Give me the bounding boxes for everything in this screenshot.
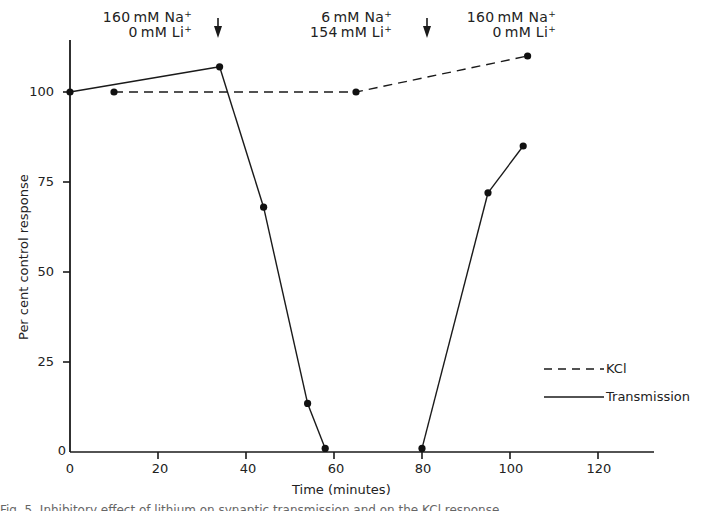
condition-label-lithium: 6 mM Na+ 154 mM Li+ bbox=[282, 10, 392, 40]
data-point bbox=[322, 445, 329, 452]
legend-kcl-label: KCl bbox=[606, 361, 627, 376]
data-point bbox=[524, 52, 531, 59]
condition-na: 160 mM Na bbox=[103, 9, 184, 25]
data-point bbox=[66, 88, 73, 95]
condition-li: 154 mM Li bbox=[310, 24, 384, 40]
superscript: + bbox=[548, 9, 556, 19]
x-tick-label: 80 bbox=[403, 461, 443, 476]
condition-li: 0 mM Li bbox=[492, 24, 548, 40]
x-tick-label: 120 bbox=[579, 461, 619, 476]
figure-caption: Fig. 5. Inhibitory effect of lithium on … bbox=[0, 504, 724, 511]
y-ticks bbox=[63, 92, 70, 362]
x-tick-label: 100 bbox=[491, 461, 531, 476]
x-ticks bbox=[158, 452, 598, 459]
x-axis-title: Time (minutes) bbox=[292, 482, 391, 497]
condition-label-control-1: 160 mM Na+ 0 mM Li+ bbox=[92, 10, 192, 40]
x-tick-label: 40 bbox=[228, 461, 268, 476]
data-point bbox=[484, 189, 491, 196]
data-point bbox=[260, 204, 267, 211]
superscript: + bbox=[548, 24, 556, 34]
transmission-series-points bbox=[66, 63, 526, 452]
legend-transmission-label: Transmission bbox=[606, 389, 690, 404]
x-tick-label: 20 bbox=[140, 461, 180, 476]
chart-plot-area bbox=[0, 0, 724, 511]
arrow-down-icon bbox=[214, 18, 222, 38]
arrow-down-icon bbox=[423, 18, 431, 38]
data-point bbox=[418, 445, 425, 452]
data-point bbox=[352, 88, 359, 95]
x-tick-label: 60 bbox=[316, 461, 356, 476]
condition-label-control-2: 160 mM Na+ 0 mM Li+ bbox=[456, 10, 556, 40]
condition-na: 160 mM Na bbox=[467, 9, 548, 25]
superscript: + bbox=[184, 9, 192, 19]
data-point bbox=[520, 142, 527, 149]
transmission-series-line bbox=[70, 67, 523, 449]
data-point bbox=[216, 63, 223, 70]
condition-li: 0 mM Li bbox=[128, 24, 184, 40]
data-point bbox=[304, 400, 311, 407]
data-point bbox=[110, 88, 117, 95]
superscript: + bbox=[384, 24, 392, 34]
condition-na: 6 mM Na bbox=[321, 9, 384, 25]
y-tick-label: 25 bbox=[20, 354, 54, 369]
x-tick-label: 0 bbox=[50, 461, 90, 476]
superscript: + bbox=[384, 9, 392, 19]
superscript: + bbox=[184, 24, 192, 34]
y-tick-label: 0 bbox=[30, 443, 66, 458]
y-axis-title: Per cent control response bbox=[16, 174, 31, 340]
y-tick-label: 100 bbox=[20, 84, 54, 99]
